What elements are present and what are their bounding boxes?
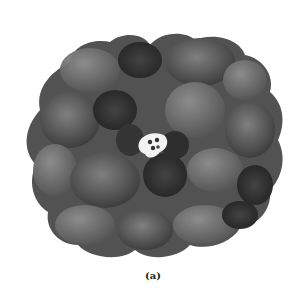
figure-panel: (a) [0, 0, 306, 295]
panel-label: (a) [0, 270, 306, 281]
protein-surface-render [0, 0, 306, 270]
